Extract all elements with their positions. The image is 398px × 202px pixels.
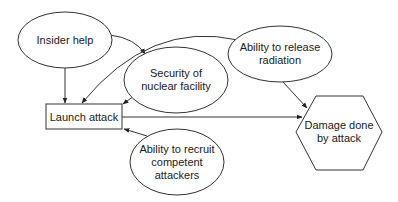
label-damage-line2: by attack xyxy=(304,132,373,145)
label-recruit-line2: competent xyxy=(139,156,214,169)
label-security-line2: nuclear facility xyxy=(141,80,211,93)
edge-recruit-to-launch xyxy=(124,129,147,136)
label-damage-line1: Damage done xyxy=(304,119,373,132)
label-radiation: Ability to release radiation xyxy=(240,41,321,67)
edge-insider-to-security xyxy=(110,35,145,54)
label-recruit-line1: Ability to recruit xyxy=(139,143,214,156)
edge-radiation-to-damage xyxy=(283,82,307,108)
label-insider-help: Insider help xyxy=(37,34,94,47)
label-radiation-line1: Ability to release xyxy=(240,41,321,54)
label-damage: Damage done by attack xyxy=(304,119,373,145)
label-radiation-line2: radiation xyxy=(240,54,321,67)
label-security-line1: Security of xyxy=(141,67,211,80)
label-security: Security of nuclear facility xyxy=(141,67,211,93)
label-recruit: Ability to recruit competent attackers xyxy=(139,143,214,182)
label-recruit-line3: attackers xyxy=(139,169,214,182)
label-launch-attack: Launch attack xyxy=(50,111,119,124)
